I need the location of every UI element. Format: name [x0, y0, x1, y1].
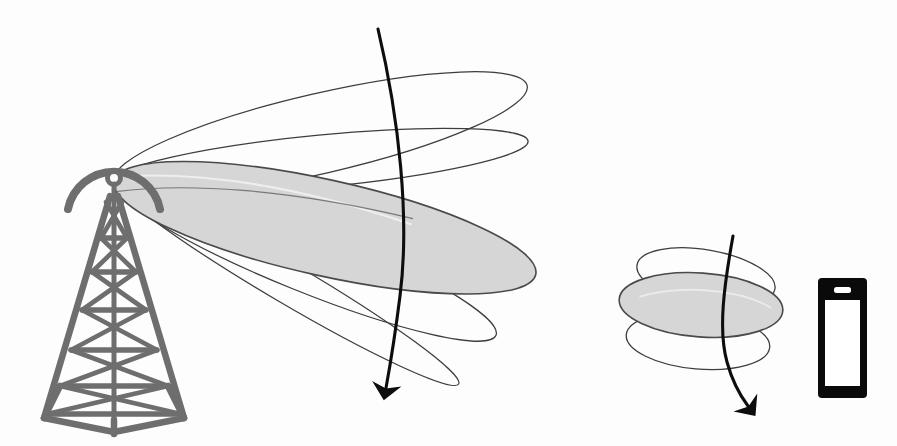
beamforming-diagram	[0, 0, 897, 446]
diagram-canvas	[0, 0, 897, 446]
mobile-handset[interactable]	[818, 278, 867, 398]
phone-screen[interactable]	[825, 300, 860, 386]
phone-speaker-slot	[834, 287, 851, 293]
